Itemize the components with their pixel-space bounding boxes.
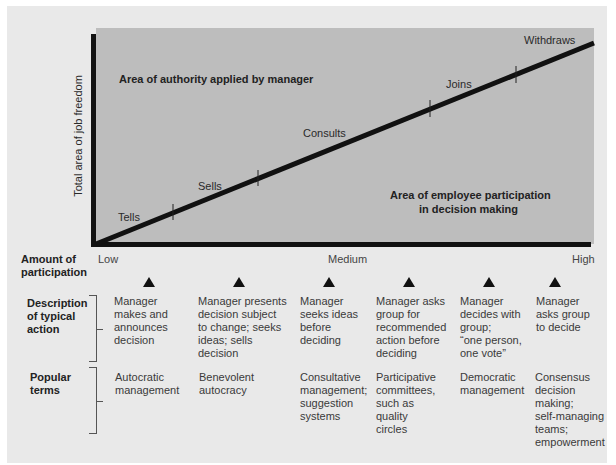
line-label-withdraws: Withdraws bbox=[524, 34, 575, 47]
line-label-sells: Sells bbox=[198, 180, 222, 193]
arrow-up-icon bbox=[483, 277, 495, 287]
popular-cell: Participative committees, such as qualit… bbox=[376, 371, 436, 436]
popular-cell: Consultative management; suggestion syst… bbox=[300, 371, 367, 423]
description-cell: Manager seeks ideas before deciding bbox=[300, 295, 358, 347]
line-label-joins: Joins bbox=[446, 78, 472, 91]
arrow-up-icon bbox=[403, 277, 415, 287]
description-cell: Manager asks group for recommended actio… bbox=[376, 295, 446, 360]
popular-bracket bbox=[89, 367, 97, 434]
participation-medium: Medium bbox=[328, 253, 367, 266]
arrow-up-icon bbox=[549, 277, 561, 287]
description-cell: Manager makes and announces decision bbox=[114, 295, 168, 347]
description-cell: Manager asks group to decide bbox=[536, 295, 590, 334]
popular-cell: Democratic management bbox=[460, 371, 524, 397]
arrow-up-icon bbox=[323, 277, 335, 287]
popular-cell: Autocratic management bbox=[115, 371, 179, 397]
amount-participation-label: Amount of participation bbox=[21, 253, 87, 279]
arrow-up-icon bbox=[233, 277, 245, 287]
description-row-label: Description of typical action bbox=[27, 297, 88, 336]
line-label-tells: Tells bbox=[118, 211, 140, 224]
participation-high: High bbox=[572, 253, 595, 266]
popular-cell: Consensus decision making; self-managing… bbox=[535, 371, 605, 449]
description-bracket bbox=[89, 295, 97, 362]
description-cell: Manager presents decision subject to cha… bbox=[198, 295, 287, 360]
employee-area-label-1: Area of employee participation bbox=[390, 189, 551, 202]
description-cell: Manager decides with group; “one person,… bbox=[460, 295, 522, 360]
popular-terms-label: Popular terms bbox=[30, 371, 71, 397]
line-label-consults: Consults bbox=[303, 127, 346, 140]
arrow-up-icon bbox=[143, 277, 155, 287]
popular-cell: Benevolent autocracy bbox=[199, 371, 254, 397]
y-axis-label: Total area of job freedom bbox=[72, 75, 84, 197]
manager-area-label: Area of authority applied by manager bbox=[119, 73, 313, 86]
participation-low: Low bbox=[98, 253, 118, 266]
employee-area-label-2: in decision making bbox=[419, 203, 518, 216]
